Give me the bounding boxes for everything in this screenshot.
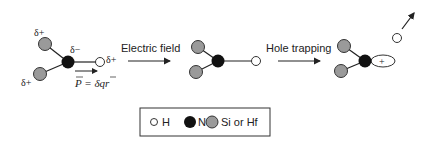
molecule-polarized xyxy=(190,41,261,79)
si-hf-atom xyxy=(34,68,47,81)
legend: H N Si or Hf xyxy=(140,108,270,136)
delta-plus-label: δ+ xyxy=(21,77,32,88)
nitrogen-atom xyxy=(62,56,75,69)
si-hf-atom xyxy=(335,65,348,78)
step-label-hole-trapping: Hole trapping xyxy=(266,42,331,54)
diagram-canvas: δ+ δ+ δ+ δ− P = δqr Electric field Hole … xyxy=(0,0,439,147)
si-hf-atom xyxy=(39,38,52,51)
hole-plus-symbol: + xyxy=(379,56,385,67)
dipole-equation: P = δqr xyxy=(74,77,110,89)
nitrogen-atom xyxy=(212,55,225,68)
molecule-hole-trapped: + xyxy=(335,13,415,78)
legend-si-hf-icon xyxy=(206,116,218,128)
molecule-initial: δ+ δ+ δ+ δ− P = δqr xyxy=(21,27,117,89)
legend-label: H xyxy=(162,116,170,128)
step-label-electric-field: Electric field xyxy=(121,42,180,54)
release-arrow xyxy=(402,13,414,29)
hydrogen-atom xyxy=(252,57,261,66)
si-hf-atom xyxy=(192,41,205,54)
delta-plus-label: δ+ xyxy=(106,54,117,65)
hydrogen-atom xyxy=(96,58,105,67)
hydrogen-atom-released xyxy=(393,34,402,43)
legend-label: Si or Hf xyxy=(221,116,259,128)
si-hf-atom xyxy=(190,66,203,79)
si-hf-atom xyxy=(338,40,351,53)
legend-hydrogen-icon xyxy=(151,119,158,126)
delta-plus-label: δ+ xyxy=(34,27,45,38)
legend-label: N xyxy=(198,116,206,128)
delta-minus-label: δ− xyxy=(70,44,81,55)
legend-nitrogen-icon xyxy=(184,116,196,128)
nitrogen-atom xyxy=(359,55,372,68)
